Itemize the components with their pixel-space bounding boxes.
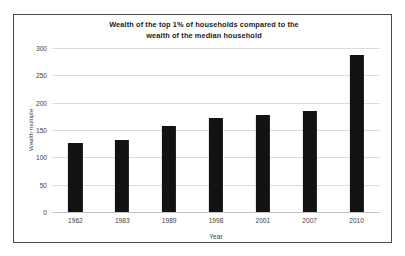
bar-group: 1962 (68, 48, 82, 212)
x-tick-label: 1983 (115, 217, 130, 224)
bar (115, 140, 129, 212)
plot-area: 050100150200250300 196219831989199820012… (52, 48, 380, 212)
bar-series: 1962198319891998200120072010 (52, 48, 380, 212)
chart-title-line-1: Wealth of the top 1% of households compa… (44, 19, 364, 30)
x-tick-label: 2001 (256, 217, 271, 224)
bar (209, 118, 223, 211)
x-tick-label: 1989 (162, 217, 177, 224)
bar (256, 115, 270, 211)
x-tick-label: 1962 (68, 217, 83, 224)
x-tick-label: 2010 (349, 217, 364, 224)
bar (68, 143, 82, 211)
chart-frame: Wealth of the top 1% of households compa… (13, 14, 392, 243)
y-axis-label: Wealth multiple (27, 109, 34, 151)
bar-group: 1998 (209, 48, 223, 212)
chart-title: Wealth of the top 1% of households compa… (44, 19, 364, 41)
gridline-0: 0 (52, 212, 380, 213)
x-tick-label: 2007 (302, 217, 317, 224)
bar-group: 2001 (256, 48, 270, 212)
bar-group: 2010 (349, 48, 363, 212)
bar-group: 1989 (162, 48, 176, 212)
bar (303, 111, 317, 212)
bar-group: 1983 (115, 48, 129, 212)
y-tick-label: 250 (36, 72, 47, 79)
bar (162, 126, 176, 211)
y-tick-label: 50 (40, 181, 47, 188)
bar-group: 2007 (303, 48, 317, 212)
y-tick-label: 300 (36, 45, 47, 52)
x-axis-label: Year (52, 233, 380, 240)
y-tick-label: 100 (36, 154, 47, 161)
bar (349, 55, 363, 212)
x-tick-label: 1998 (209, 217, 224, 224)
y-tick-label: 150 (36, 127, 47, 134)
chart-title-line-2: wealth of the median household (44, 30, 364, 41)
y-tick-label: 0 (43, 209, 47, 216)
y-tick-label: 200 (36, 99, 47, 106)
